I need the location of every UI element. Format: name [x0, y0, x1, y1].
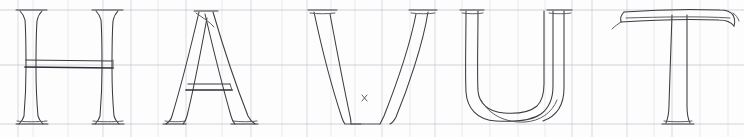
letter-a [163, 11, 258, 124]
letter-t [612, 10, 739, 124]
lettering-practice-sheet: HAVUT [0, 0, 744, 137]
letter-h [16, 10, 124, 124]
letter-u [460, 10, 572, 122]
vertical-guides [18, 0, 728, 137]
lettering-canvas [0, 0, 744, 137]
letter-v [308, 10, 437, 124]
